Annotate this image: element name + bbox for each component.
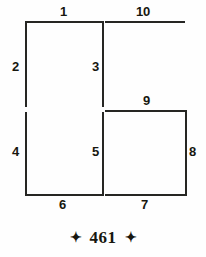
label-4: 4 <box>12 145 19 158</box>
label-9: 9 <box>143 94 150 107</box>
segment-5 <box>102 112 104 196</box>
segment-9 <box>105 110 185 112</box>
segment-3 <box>102 21 104 107</box>
label-6: 6 <box>59 198 66 211</box>
figure-diagram: 11023945867 ✦461✦ <box>0 0 206 257</box>
four-pointed-star-icon-right: ✦ <box>121 230 141 245</box>
segment-4 <box>25 112 27 196</box>
label-5: 5 <box>92 145 99 158</box>
segment-7 <box>105 194 185 196</box>
segment-10 <box>105 21 185 23</box>
page-number: 461 <box>86 228 121 247</box>
page-footer: ✦461✦ <box>0 228 206 248</box>
four-pointed-star-icon-left: ✦ <box>66 230 86 245</box>
label-1: 1 <box>60 5 67 18</box>
segment-8 <box>185 110 187 196</box>
label-8: 8 <box>189 145 196 158</box>
segment-1 <box>25 21 102 23</box>
label-10: 10 <box>136 5 150 18</box>
segment-2 <box>25 21 27 107</box>
label-3: 3 <box>92 60 99 73</box>
segment-6 <box>25 194 102 196</box>
label-7: 7 <box>141 198 148 211</box>
label-2: 2 <box>12 60 19 73</box>
